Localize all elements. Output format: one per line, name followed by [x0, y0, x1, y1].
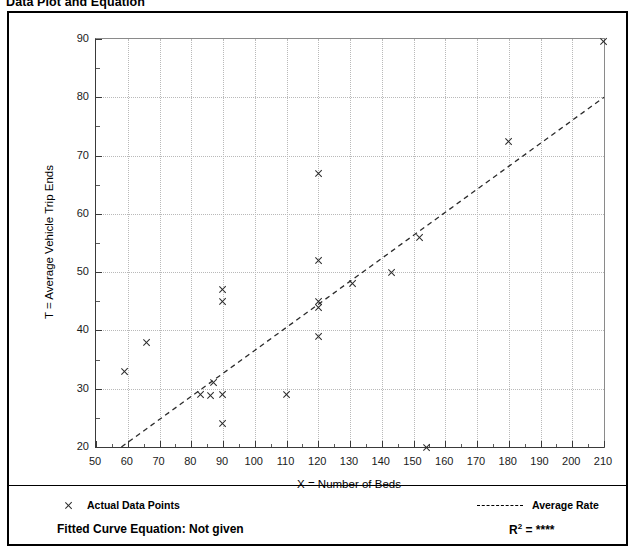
y-axis-tick-label: 70	[61, 149, 89, 161]
y-axis-tick-label: 20	[61, 440, 89, 452]
x-axis-tick-label: 150	[403, 455, 421, 467]
legend-block: Actual Data Points Average Rate Fitted C…	[9, 486, 626, 546]
x-axis-tick-label: 170	[467, 455, 485, 467]
x-axis-tick-label: 90	[216, 455, 228, 467]
fitted-curve-equation: Fitted Curve Equation: Not given	[57, 522, 244, 536]
y-axis-tick-label: 40	[61, 323, 89, 335]
x-axis-tick-label: 160	[435, 455, 453, 467]
r-squared-symbol: R	[509, 523, 518, 537]
x-axis-tick-label: 210	[594, 455, 612, 467]
plot-area	[95, 38, 605, 448]
dashed-line-icon	[477, 505, 523, 506]
x-axis-tick-label: 200	[562, 455, 580, 467]
legend-row-equation: Fitted Curve Equation: Not given R2 = **…	[9, 522, 626, 544]
page-title: Data Plot and Equation	[6, 0, 145, 9]
x-axis-tick-label: 180	[499, 455, 517, 467]
x-axis-tick-label: 140	[372, 455, 390, 467]
x-axis-tick-label: 100	[245, 455, 263, 467]
x-marker-icon	[64, 501, 73, 510]
r-squared-number: = ****	[525, 523, 554, 537]
y-axis-tick-label: 90	[61, 32, 89, 44]
y-axis-tick-label: 80	[61, 90, 89, 102]
legend-row-series: Actual Data Points Average Rate	[9, 496, 626, 516]
r-squared-value: R2 = ****	[509, 522, 555, 537]
y-axis-tick-label: 60	[61, 207, 89, 219]
y-axis-tick-label: 50	[61, 265, 89, 277]
x-axis-tick-label: 80	[184, 455, 196, 467]
x-axis-tick-label: 110	[277, 455, 295, 467]
x-axis-tick-label: 70	[152, 455, 164, 467]
y-axis-tick-label: 30	[61, 382, 89, 394]
x-axis-tick-label: 50	[89, 455, 101, 467]
x-axis-tick-label: 120	[308, 455, 326, 467]
average-rate-trendline	[96, 39, 606, 449]
x-axis-tick-label: 130	[340, 455, 358, 467]
legend-label-actual-data-points: Actual Data Points	[87, 499, 180, 511]
x-axis-tick-label: 190	[530, 455, 548, 467]
r-squared-exponent: 2	[518, 522, 522, 531]
legend-label-average-rate: Average Rate	[532, 499, 599, 511]
y-axis-title: T = Average Vehicle Trip Ends	[43, 165, 55, 319]
figure-frame: X = Number of Beds T = Average Vehicle T…	[7, 11, 628, 546]
x-axis-tick-label: 60	[121, 455, 133, 467]
